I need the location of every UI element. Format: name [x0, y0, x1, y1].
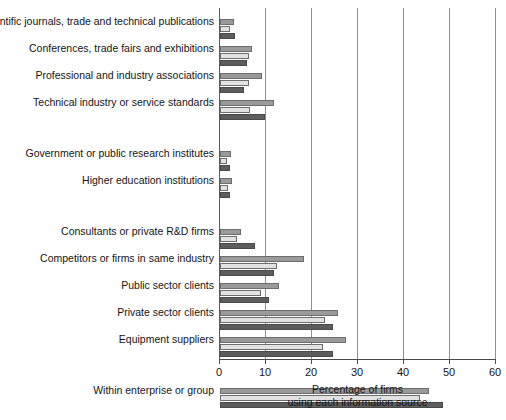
bar — [220, 46, 252, 52]
x-axis-tick-label: 50 — [434, 366, 464, 379]
bar — [220, 344, 323, 350]
bar — [220, 337, 346, 343]
bar — [220, 310, 338, 316]
x-axis-tick — [403, 359, 404, 364]
bar — [220, 192, 230, 198]
bar — [220, 185, 228, 191]
x-axis-tick-label: 40 — [388, 366, 418, 379]
category-label: Within enterprise or group — [93, 384, 214, 396]
bar — [220, 26, 230, 32]
bar — [220, 33, 235, 39]
bar — [220, 283, 279, 289]
x-axis-tick-label: 20 — [296, 366, 326, 379]
bar — [220, 236, 237, 242]
bar — [220, 317, 325, 323]
category-labels: Scientific journals, trade and technical… — [0, 0, 214, 420]
x-axis-tick — [311, 359, 312, 364]
bar — [220, 87, 244, 93]
gridline — [449, 8, 450, 359]
category-label: Professional and industry associations — [35, 69, 214, 81]
category-label: Scientific journals, trade and technical… — [0, 15, 214, 27]
category-label: Government or public research institutes — [25, 147, 214, 159]
gridline — [311, 8, 312, 359]
bar — [220, 80, 249, 86]
gridline — [357, 8, 358, 359]
bar — [220, 263, 277, 269]
bar — [220, 243, 255, 249]
bar — [220, 270, 274, 276]
gridline — [403, 8, 404, 359]
x-axis-tick — [265, 359, 266, 364]
bar — [220, 114, 265, 120]
bar — [220, 19, 234, 25]
x-axis-tick-label: 30 — [342, 366, 372, 379]
x-axis-title-line2: using each information source — [219, 396, 496, 409]
category-label: Competitors or firms in same industry — [40, 252, 214, 264]
bar — [220, 351, 333, 357]
category-label: Private sector clients — [117, 306, 214, 318]
x-axis-title-line1: Percentage of firms — [219, 383, 496, 396]
bar — [220, 53, 249, 59]
category-label: Public sector clients — [121, 279, 214, 291]
bar — [220, 290, 261, 296]
bar — [220, 60, 247, 66]
bar — [220, 107, 250, 113]
category-label: Equipment suppliers — [119, 333, 214, 345]
bar — [220, 256, 304, 262]
bar — [220, 178, 232, 184]
x-axis-tick-label: 10 — [250, 366, 280, 379]
x-axis-title: Percentage of firms using each informati… — [219, 383, 496, 409]
x-axis-tick — [449, 359, 450, 364]
x-axis-tick — [357, 359, 358, 364]
bar — [220, 229, 241, 235]
category-label: Technical industry or service standards — [33, 96, 214, 108]
bar — [220, 324, 333, 330]
x-axis-tick — [495, 359, 496, 364]
category-label: Consultants or private R&D firms — [61, 225, 214, 237]
bar — [220, 73, 262, 79]
gridline — [495, 8, 496, 359]
category-label: Conferences, trade fairs and exhibitions — [29, 42, 214, 54]
bar — [220, 151, 231, 157]
bar — [220, 100, 274, 106]
x-axis-tick-label: 0 — [204, 366, 234, 379]
category-label: Higher education institutions — [82, 174, 214, 186]
x-axis-tick — [219, 359, 220, 364]
x-axis-tick-label: 60 — [480, 366, 506, 379]
bar — [220, 165, 230, 171]
plot-area — [219, 8, 495, 359]
bar — [220, 297, 269, 303]
gridline — [265, 8, 266, 359]
bar — [220, 158, 227, 164]
